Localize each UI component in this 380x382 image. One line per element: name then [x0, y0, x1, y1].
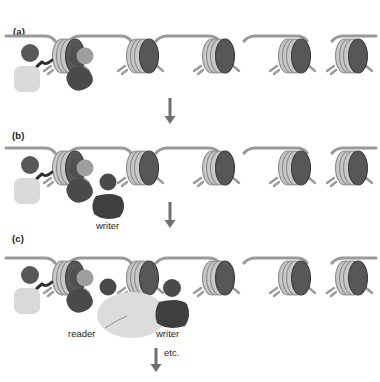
- new-mark-b: [100, 174, 117, 191]
- writer-label-c: writer: [155, 328, 179, 339]
- arrow-c-onward: [151, 348, 162, 372]
- arrow-b-to-c: [0, 200, 380, 232]
- reader-label-c: reader: [68, 328, 95, 339]
- etc-label: etc.: [164, 347, 179, 358]
- panel-c-graphic: reader writer etc.: [0, 230, 380, 382]
- new-mark-c: [163, 279, 181, 297]
- arrow-a-to-b: [0, 96, 380, 128]
- mark-second-c: [100, 279, 117, 296]
- writer-shape-c: [155, 300, 189, 328]
- panel-c: (c) reader writer etc.: [0, 230, 380, 382]
